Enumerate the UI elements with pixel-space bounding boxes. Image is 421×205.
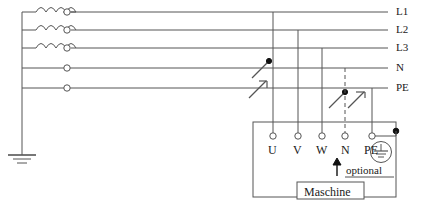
optional-label: optional <box>346 165 382 176</box>
terminal-label-v: V <box>293 144 302 156</box>
disconnect-switch-pe-left[interactable] <box>249 81 267 98</box>
isolating-terminal-l3[interactable] <box>64 45 70 51</box>
up-arrow-icon <box>333 158 341 176</box>
terminal-label-w: W <box>316 144 327 156</box>
bus-label-l1: L1 <box>396 6 408 17</box>
terminal-w[interactable] <box>319 133 325 139</box>
terminal-pe[interactable] <box>369 133 375 139</box>
wiring-diagram: L1 L2 L3 N PE U V W N PE optional Maschi… <box>0 0 421 205</box>
bus-label-pe: PE <box>396 82 409 93</box>
junction-dot-n-left <box>266 58 271 63</box>
isolating-terminal-pe[interactable] <box>64 85 70 91</box>
terminal-u[interactable] <box>270 133 276 139</box>
earth-ground-symbol <box>8 155 36 163</box>
terminal-label-u: U <box>268 144 277 156</box>
bus-label-l3: L3 <box>396 42 408 53</box>
terminal-label-pe: PE <box>364 144 378 156</box>
bus-label-l2: L2 <box>396 24 408 35</box>
disconnect-switch-pe-right-aux[interactable] <box>348 92 365 108</box>
machine-label: Maschine <box>304 186 351 198</box>
terminal-n[interactable] <box>342 133 348 139</box>
terminal-v[interactable] <box>295 133 301 139</box>
bus-line-l2 <box>22 26 388 31</box>
terminal-label-n: N <box>341 144 350 156</box>
isolating-terminal-n[interactable] <box>64 65 70 71</box>
bus-label-n: N <box>396 62 404 73</box>
isolating-terminal-l2[interactable] <box>64 27 70 33</box>
isolating-terminal-l1[interactable] <box>64 9 70 15</box>
bus-line-l1 <box>22 8 388 13</box>
bus-line-l3 <box>22 44 388 49</box>
